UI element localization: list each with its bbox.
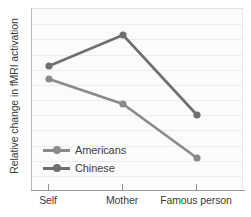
x-tick-label: Mother	[106, 194, 138, 206]
data-point	[193, 154, 200, 161]
data-point	[193, 111, 200, 118]
legend-marker-chinese	[43, 159, 70, 177]
x-tick	[196, 184, 197, 191]
legend-dot-chinese	[53, 164, 61, 172]
data-point	[45, 62, 52, 69]
chart-legend: Americans Chinese	[43, 141, 126, 177]
data-point	[119, 100, 126, 107]
x-tick-label: Famous person	[160, 194, 232, 206]
x-tick-label: Self	[39, 194, 57, 206]
legend-dot-americans	[53, 146, 61, 154]
y-axis-title: Relative change in fMRI activation	[6, 3, 22, 189]
x-tick	[48, 184, 49, 191]
x-tick	[122, 184, 123, 191]
x-axis-line	[31, 190, 245, 191]
legend-item-americans: Americans	[43, 141, 126, 159]
fmri-activation-line-chart: Relative change in fMRI activation SelfM…	[0, 0, 251, 217]
legend-label-chinese: Chinese	[70, 162, 115, 174]
legend-label-americans: Americans	[70, 144, 126, 156]
data-point	[45, 75, 52, 82]
data-point	[119, 31, 126, 38]
legend-marker-americans	[43, 141, 70, 159]
legend-item-chinese: Chinese	[43, 159, 126, 177]
